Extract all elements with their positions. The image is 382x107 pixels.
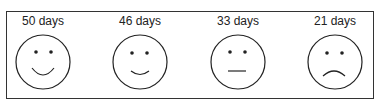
faces-drawing <box>0 0 382 107</box>
big-smile-face-icon <box>16 35 70 89</box>
neutral-face-icon <box>211 35 265 89</box>
frown-face-icon <box>308 35 362 89</box>
smile-face-icon <box>113 35 167 89</box>
